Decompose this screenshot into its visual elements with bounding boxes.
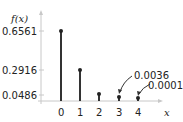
x-tick-label: 3 [116,107,122,118]
annotation-arrow-3 [120,76,132,92]
x-tick-label: 2 [96,107,102,118]
stems [61,31,138,101]
y-tick-label: 0.6561 [2,26,37,37]
y-axis-label: f(x) [10,13,28,24]
y-axis-arrow-icon [39,10,43,15]
y-tick-label: 0.0486 [2,90,37,101]
y-tick-label: 0.2916 [2,65,37,76]
stem-chart: f(x) 0.6561 0.2916 0.0486 0.0036 0.0001 … [0,0,183,122]
annotation-4: 0.0001 [148,80,183,91]
x-tick-label: 1 [77,107,83,118]
x-tick-label: 0 [58,107,64,118]
arrowhead-icon [118,89,122,94]
x-axis-arrow-icon [158,99,163,103]
x-tick-label: 4 [135,107,141,118]
stem-markers [59,29,140,100]
x-axis-label: x [164,107,170,118]
